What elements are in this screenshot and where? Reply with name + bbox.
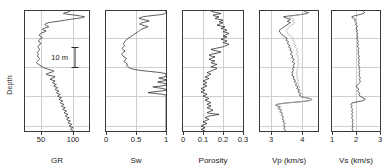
panel-s-wave-velocity: 123Vs (km/s) <box>331 10 381 132</box>
panel-water-saturation: 00.51Sw <box>105 10 167 132</box>
curves-p-wave-velocity <box>260 11 318 131</box>
x-tick-label-0: 3 <box>269 135 273 144</box>
plot-frame-porosity <box>182 10 244 132</box>
x-tick-label-0: 1 <box>330 135 334 144</box>
plot-frame-s-wave-velocity <box>331 10 381 132</box>
x-axis-water-saturation: 00.51 <box>105 132 167 133</box>
panel-p-wave-velocity: 34Vp (km/s) <box>259 10 319 132</box>
curves-gamma-ray <box>25 11 89 131</box>
x-axis-gamma-ray: 50100 <box>24 132 90 133</box>
x-tick-label-2: 1 <box>164 135 168 144</box>
axis-title-s-wave-velocity: Vs (km/s) <box>331 156 381 166</box>
panel-gamma-ray: 50100GR <box>24 10 90 132</box>
curve-vs <box>351 11 365 131</box>
axis-title-gamma-ray: GR <box>24 156 90 166</box>
x-tick-label-1: 100 <box>67 135 80 144</box>
plot-frame-water-saturation <box>105 10 167 132</box>
x-tick-label-3: 0.3 <box>238 135 248 144</box>
x-axis-s-wave-velocity: 123 <box>331 132 381 133</box>
curve-sw <box>122 11 166 131</box>
x-axis-p-wave-velocity: 34 <box>259 132 319 133</box>
x-tick-label-1: 4 <box>300 135 304 144</box>
axis-title-porosity: Porosity <box>182 156 244 166</box>
x-tick-label-1: 0.1 <box>198 135 208 144</box>
curves-s-wave-velocity <box>332 11 380 131</box>
plot-frame-gamma-ray <box>24 10 90 132</box>
x-tick-label-2: 3 <box>378 135 382 144</box>
x-tick-label-0: 0 <box>181 135 185 144</box>
well-log-figure: Depth 50100GR00.51Sw00.10.20.3Porosity34… <box>0 0 385 168</box>
curve-gr <box>37 11 85 131</box>
curve-porosity <box>201 11 229 131</box>
panel-porosity: 00.10.20.3Porosity <box>182 10 244 132</box>
axis-title-p-wave-velocity: Vp (km/s) <box>259 156 319 166</box>
axis-title-water-saturation: Sw <box>105 156 167 166</box>
curves-water-saturation <box>106 11 166 131</box>
curves-porosity <box>183 11 243 131</box>
x-tick-label-0: 50 <box>37 135 45 144</box>
x-tick-label-1: 0.5 <box>131 135 141 144</box>
plot-frame-p-wave-velocity <box>259 10 319 132</box>
x-tick-label-2: 0.2 <box>218 135 228 144</box>
x-axis-porosity: 00.10.20.3 <box>182 132 244 133</box>
x-tick-label-1: 2 <box>354 135 358 144</box>
x-tick-label-0: 0 <box>104 135 108 144</box>
curve-vp-measured <box>276 11 312 131</box>
